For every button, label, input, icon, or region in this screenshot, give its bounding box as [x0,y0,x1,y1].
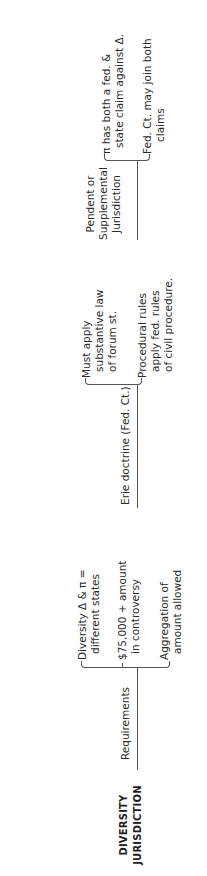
requirement-amount-line-2: in controversy [129,561,142,660]
title-line-1: DIVERSITY [117,782,131,868]
erie-item-substantive-law: Must apply substantive law of forum st. [80,290,119,378]
pendent-bracket [104,154,150,161]
requirement-diversity-line-2: different states [89,569,102,660]
requirements-connector-line [137,668,138,770]
requirements-bracket [81,661,170,668]
erie-procedural-line-1: Procedural rules [136,278,149,378]
erie-substantive-line-3: of forum st. [106,290,119,378]
requirement-item-diversity: Diversity Δ & π = different states [76,569,102,660]
pendent-item-both-claims: π has both a fed. & state claim against … [100,34,126,154]
erie-substantive-line-2: substantive law [93,290,106,378]
pendent-join-claims-line-1: Fed. Ct. may join both [141,38,154,154]
requirement-aggregation-line-1: Aggregation of [158,570,171,660]
erie-substantive-line-1: Must apply [80,290,93,378]
erie-bracket [85,378,142,385]
requirement-amount-line-1: $75,000 + amount [116,561,129,660]
requirement-item-amount: $75,000 + amount in controversy [116,561,142,660]
pendent-label-line-1: Pendent or [84,168,97,240]
diagram-title: DIVERSITY JURISDICTION [117,782,145,868]
title-line-2: JURISDICTION [131,782,145,868]
erie-connector-line [137,384,138,508]
pendent-label-line-2: Supplemental [97,168,110,240]
pendent-both-claims-line-2: state claim against Δ. [113,34,126,154]
erie-procedural-line-3: of civil procedure. [162,278,175,378]
requirements-label: Requirements [119,687,132,760]
pendent-connector-line [137,160,138,240]
pendent-label-line-3: Jurisdiction [110,168,123,240]
pendent-item-join-claims: Fed. Ct. may join both claims [141,38,167,154]
requirements-bracket-tick [122,663,123,668]
erie-doctrine-label: Erie doctrine (Fed. Ct.) [119,386,132,505]
erie-item-procedural-rules: Procedural rules apply fed. rules of civ… [136,278,175,378]
pendent-both-claims-line-1: π has both a fed. & [100,34,113,154]
diagram-stage: DIVERSITY JURISDICTION Requirements Dive… [0,0,207,876]
requirement-aggregation-line-2: amount allowed [171,570,184,660]
requirement-item-aggregation: Aggregation of amount allowed [158,570,184,660]
pendent-label: Pendent or Supplemental Jurisdiction [84,168,123,240]
pendent-join-claims-line-2: claims [154,38,167,154]
requirement-diversity-line-1: Diversity Δ & π = [76,569,89,660]
erie-procedural-line-2: apply fed. rules [149,278,162,378]
